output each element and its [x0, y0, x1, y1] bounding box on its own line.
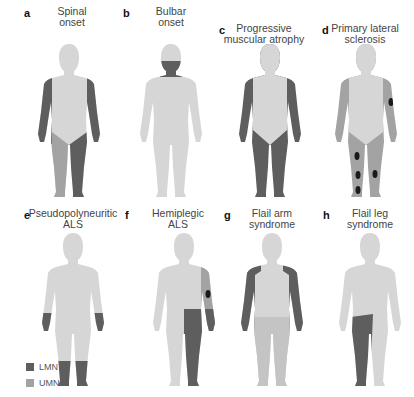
legend-label: UMN — [39, 378, 60, 388]
panel-h-flail-leg-syndrome: h Flail leg syndrome — [310, 199, 413, 397]
legend-label: LMN — [39, 362, 58, 372]
body-figure — [134, 42, 209, 198]
panel-title: Flail arm syndrome — [222, 208, 322, 230]
body-figure — [235, 231, 310, 387]
lmn-swatch-icon — [26, 363, 34, 371]
panel-title: Flail leg syndrome — [320, 208, 414, 230]
legend: LMN UMN — [26, 361, 60, 393]
legend-item-lmn: LMN — [26, 361, 60, 373]
body-figure — [329, 42, 404, 198]
legend-item-umn: UMN — [26, 377, 60, 389]
body-figure — [233, 42, 308, 198]
body-figure — [32, 42, 107, 198]
panel-a-spinal-onset: a Spinal onset — [0, 0, 103, 198]
panel-f-hemiplegic-als: f Hemiplegic ALS — [103, 199, 206, 397]
umn-swatch-icon — [26, 379, 34, 387]
panel-d-primary-lateral-sclerosis: d Primary lateral sclerosis — [310, 0, 413, 198]
panel-b-bulbar-onset: b Bulbar onset — [103, 0, 206, 198]
panel-g-flail-arm-syndrome: g Flail arm syndrome — [206, 199, 309, 397]
body-figure — [333, 231, 408, 387]
panel-c-progressive-muscular-atrophy: c Progressive muscular atrophy — [206, 0, 309, 198]
